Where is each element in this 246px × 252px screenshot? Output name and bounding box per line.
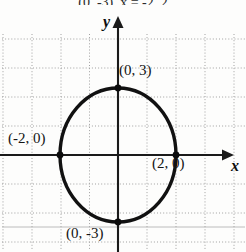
x-axis-label: x xyxy=(231,158,239,174)
y-axis-arrowhead xyxy=(113,16,124,28)
point-left xyxy=(57,152,64,159)
point-label-top: (0, 3) xyxy=(119,63,152,78)
point-label-right: (2, 0) xyxy=(152,156,185,171)
ellipse-graph-figure: (0, -3), x = -2, 2 xyxy=(0,0,246,252)
y-axis-label: y xyxy=(103,14,110,30)
point-bottom xyxy=(115,219,122,226)
point-label-bottom: (0, -3) xyxy=(66,226,104,241)
plot-canvas xyxy=(0,0,246,252)
point-top xyxy=(115,85,122,92)
point-label-left: (-2, 0) xyxy=(8,131,46,146)
